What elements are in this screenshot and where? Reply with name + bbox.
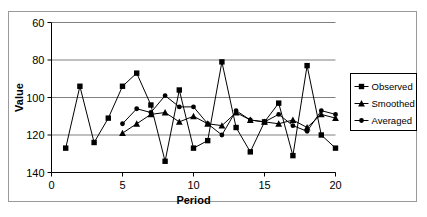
data-marker-triangle xyxy=(176,118,183,124)
y-tick-label: 120 xyxy=(26,129,44,141)
data-marker-triangle xyxy=(133,120,140,126)
data-marker-square xyxy=(148,102,153,107)
data-marker-triangle xyxy=(119,130,126,136)
x-tick-label: 10 xyxy=(187,179,199,191)
data-marker-square xyxy=(233,125,238,130)
data-marker-circle xyxy=(205,121,210,126)
data-marker-square xyxy=(77,84,82,89)
data-marker-square xyxy=(106,115,111,120)
legend-label: Observed xyxy=(372,81,413,92)
axis-labels-group: 140120100806005101520ValuePeriod xyxy=(13,17,342,206)
data-marker-square xyxy=(333,145,338,150)
data-marker-square xyxy=(191,145,196,150)
data-marker-square xyxy=(177,87,182,92)
data-marker-triangle xyxy=(162,109,169,115)
data-marker-square xyxy=(91,140,96,145)
series-line xyxy=(66,62,336,161)
data-marker-circle xyxy=(120,121,125,126)
data-marker-square xyxy=(304,63,309,68)
y-tick-label: 100 xyxy=(26,92,44,104)
data-marker-square xyxy=(120,84,125,89)
x-tick-label: 20 xyxy=(329,179,341,191)
y-tick-label: 140 xyxy=(26,167,44,179)
legend: ObservedSmoothedAveraged xyxy=(351,74,417,131)
data-marker-circle xyxy=(291,123,296,128)
data-marker-circle xyxy=(163,93,168,98)
series-observed xyxy=(63,59,338,164)
data-marker-square xyxy=(276,100,281,105)
y-axis-title: Value xyxy=(13,83,25,112)
data-marker-triangle xyxy=(190,113,197,119)
data-marker-circle xyxy=(248,118,253,123)
x-tick-label: 0 xyxy=(48,179,54,191)
data-series-group xyxy=(63,59,339,164)
chart-plot: 140120100806005101520ValuePeriod Observe… xyxy=(0,0,427,217)
data-marker-square xyxy=(162,159,167,164)
data-marker-circle xyxy=(359,118,364,123)
data-marker-square xyxy=(134,70,139,75)
legend-label: Smoothed xyxy=(372,98,415,109)
y-tick-label: 60 xyxy=(32,17,44,29)
legend-label: Averaged xyxy=(372,115,413,126)
series-line xyxy=(123,96,336,135)
x-axis-title: Period xyxy=(176,194,210,206)
data-marker-circle xyxy=(333,112,338,117)
y-tick-label: 80 xyxy=(32,54,44,66)
data-marker-square xyxy=(219,59,224,64)
data-marker-square xyxy=(205,138,210,143)
data-marker-square xyxy=(290,153,295,158)
data-marker-square xyxy=(248,149,253,154)
x-tick-label: 5 xyxy=(119,179,125,191)
data-marker-circle xyxy=(220,133,225,138)
data-marker-circle xyxy=(191,104,196,109)
data-marker-circle xyxy=(177,104,182,109)
data-marker-circle xyxy=(149,110,154,115)
data-marker-circle xyxy=(276,112,281,117)
data-marker-circle xyxy=(305,129,310,134)
data-marker-square xyxy=(319,132,324,137)
data-marker-square xyxy=(63,145,68,150)
data-marker-circle xyxy=(319,108,324,113)
data-marker-circle xyxy=(134,106,139,111)
data-marker-square xyxy=(359,84,364,89)
data-marker-circle xyxy=(262,119,267,124)
data-marker-triangle xyxy=(290,117,297,123)
x-tick-label: 15 xyxy=(258,179,270,191)
data-marker-circle xyxy=(234,108,239,113)
chart-container: 140120100806005101520ValuePeriod Observe… xyxy=(0,0,427,217)
